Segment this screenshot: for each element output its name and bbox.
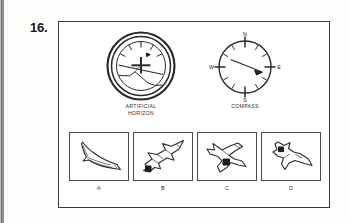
aircraft-climbing-icon: [134, 133, 192, 180]
compass-caption: COMPASS: [195, 103, 295, 110]
compass-instrument: N S W E COMPASS: [195, 30, 295, 110]
option-c-label: C: [197, 185, 257, 191]
option-d[interactable]: D: [261, 132, 321, 191]
question-number: 16.: [30, 20, 47, 35]
aircraft-diving-icon: [262, 133, 320, 180]
compass-label-north: N: [243, 31, 247, 37]
option-b-label: B: [133, 185, 193, 191]
artificial-horizon-instrument: ARTIFICIAL HORIZON: [93, 30, 189, 117]
page-edge-line: [3, 0, 4, 223]
option-a-label: A: [69, 185, 129, 191]
option-d-label: D: [261, 185, 321, 191]
question-frame: ARTIFICIAL HORIZON N S W E: [58, 21, 330, 208]
compass-label-south: S: [243, 97, 247, 102]
compass-label-east: E: [277, 64, 281, 70]
option-c[interactable]: C: [197, 132, 257, 191]
compass-label-west: W: [209, 64, 215, 70]
option-c-box[interactable]: [197, 132, 257, 181]
aircraft-banking-icon: [198, 133, 256, 180]
artificial-horizon-icon: [105, 30, 177, 102]
option-b[interactable]: B: [133, 132, 193, 191]
answer-options: A B: [69, 132, 321, 191]
option-a-box[interactable]: [69, 132, 129, 181]
aircraft-level-flight-icon: [70, 133, 128, 180]
option-d-box[interactable]: [261, 132, 321, 181]
artificial-horizon-caption: ARTIFICIAL HORIZON: [93, 103, 189, 117]
option-a[interactable]: A: [69, 132, 129, 191]
compass-icon: N S W E: [207, 30, 283, 102]
option-b-box[interactable]: [133, 132, 193, 181]
